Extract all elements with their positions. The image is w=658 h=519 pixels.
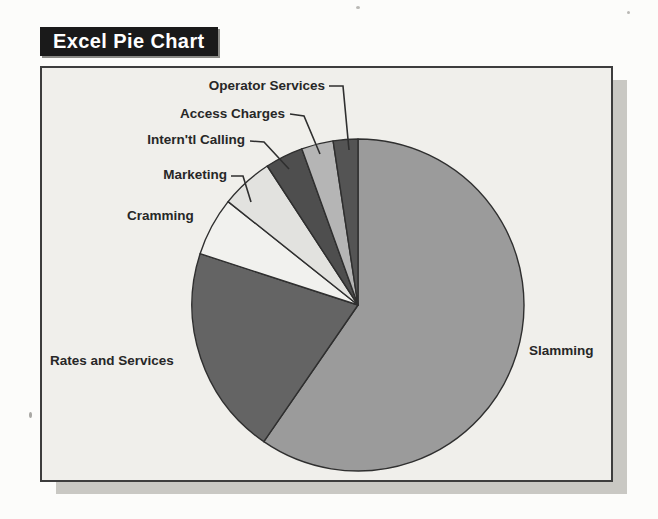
scan-speckle: [356, 6, 360, 9]
figure-title-banner: Excel Pie Chart: [40, 27, 218, 56]
scan-speckle: [627, 11, 630, 14]
slice-label-operator-services: Operator Services: [209, 78, 325, 93]
slice-label-marketing: Marketing: [163, 167, 227, 182]
slice-label-cramming: Cramming: [127, 208, 194, 223]
slice-label-interntl-calling: Intern'tl Calling: [147, 132, 245, 147]
chart-frame: Operator Services Access Charges Intern'…: [40, 66, 613, 482]
scanned-page: { "header": { "title": "Excel Pie Chart"…: [0, 0, 658, 519]
slice-label-rates-and-services: Rates and Services: [50, 353, 174, 368]
slice-label-slamming: Slamming: [529, 343, 594, 358]
pie-chart: [42, 68, 611, 480]
slice-label-access-charges: Access Charges: [180, 106, 285, 121]
scan-speckle: [29, 412, 32, 418]
